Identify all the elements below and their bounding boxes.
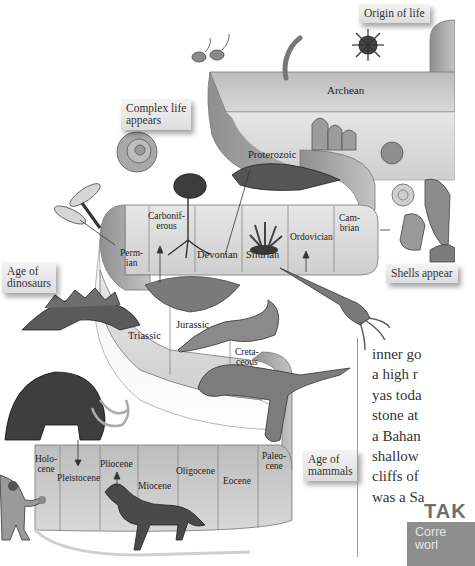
callout-complex-life-appears: Complex life appears [121,99,191,130]
label-jurassic: Jurassic [176,320,209,330]
label-miocene: Miocene [138,482,171,492]
label-cretaceous: Creta- ceous [235,348,259,367]
body-line: yas toda [372,385,462,405]
body-line: stone at [372,405,462,425]
label-carboniferous: Carbonif- erous [148,212,185,231]
callout-complex-life-line2: appears [126,114,186,126]
callout-age-of-dinosaurs-line2: dinosaurs [7,277,51,289]
callout-age-of-dinosaurs: Age of dinosaurs [2,262,56,293]
label-cambrian-line2: brian [339,224,360,234]
callout-age-of-mammals-line1: Age of [308,453,353,465]
label-pleistocene: Pleistocene [57,474,100,484]
takeaway-box-line2: worl [415,539,475,552]
body-text-column: inner go a high r yas toda stone at a Ba… [372,344,462,507]
body-line: inner go [372,344,462,364]
label-cretaceous-line2: ceous [235,358,259,368]
early-cells-icon [192,34,229,62]
takeaway-heading: TAK [424,500,467,523]
label-pliocene: Pliocene [100,460,133,470]
label-archean: Archean [327,86,364,96]
body-line: a high r [372,364,462,384]
label-ordovician: Ordovician [290,233,333,243]
label-holocene-line2: cene [35,465,57,475]
label-proterozoic: Proterozoic [248,150,296,160]
label-permian: Perm- ian [120,249,143,268]
callout-complex-life-line1: Complex life [126,102,186,114]
body-line: cliffs of [372,466,462,486]
callout-age-of-mammals: Age of mammals [303,450,358,481]
label-silurian: Silurian [246,250,279,260]
callout-age-of-dinosaurs-line1: Age of [7,265,51,277]
takeaway-box: Corre worl [407,522,475,566]
label-paleocene: Paleo- cene [262,452,286,471]
label-oligocene: Oligocene [176,467,215,477]
label-eocene: Eocene [223,477,251,487]
column-divider [357,338,358,557]
callout-shells-appear: Shells appear [386,264,458,283]
body-line: shallow [372,446,462,466]
body-line: a Bahan [372,426,462,446]
label-paleocene-line2: cene [262,462,286,472]
callout-origin-of-life: Origin of life [359,4,430,23]
label-carboniferous-line2: erous [148,222,185,232]
label-holocene: Holo- cene [35,455,57,474]
label-triassic: Triassic [128,331,161,341]
label-permian-line2: ian [120,259,143,269]
label-devonian: Devonian [197,250,238,260]
label-cambrian: Cam- brian [339,214,360,233]
callout-age-of-mammals-line2: mammals [308,465,353,477]
